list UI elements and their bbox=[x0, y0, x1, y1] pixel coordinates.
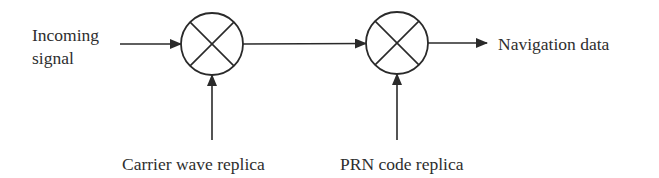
incoming-signal-label-line-1: Incoming bbox=[32, 24, 99, 47]
prn-code-replica-label: PRN code replica bbox=[340, 154, 463, 174]
carrier-wave-replica-label: Carrier wave replica bbox=[122, 154, 265, 174]
intermediate-arrow bbox=[243, 44, 366, 45]
navigation-data-label: Navigation data bbox=[498, 34, 609, 54]
incoming-signal-label-line-2: signal bbox=[32, 47, 99, 70]
incoming-signal-label: Incoming signal bbox=[32, 24, 99, 70]
mixer-1-multiplier-icon bbox=[181, 13, 243, 75]
mixer-2-multiplier-icon bbox=[366, 12, 428, 74]
